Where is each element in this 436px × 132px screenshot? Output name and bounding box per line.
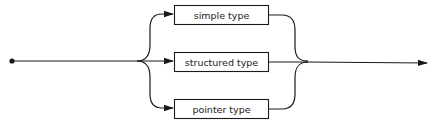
merge-from-pointer: [269, 62, 308, 109]
alternative-pointer-type: pointer type: [175, 100, 269, 119]
structured-type-label: structured type: [185, 57, 259, 68]
exit-arrow: [305, 62, 427, 63]
syntax-diagram: simple type structured type pointer type: [0, 0, 436, 132]
merge-from-simple: [269, 15, 308, 61]
alternative-structured-type: structured type: [175, 53, 269, 72]
simple-type-label: simple type: [194, 10, 250, 21]
branch-to-simple-arrow: [137, 14, 173, 61]
pointer-type-label: pointer type: [192, 104, 250, 115]
alternative-simple-type: simple type: [175, 6, 269, 25]
branch-to-pointer-arrow: [137, 61, 173, 108]
